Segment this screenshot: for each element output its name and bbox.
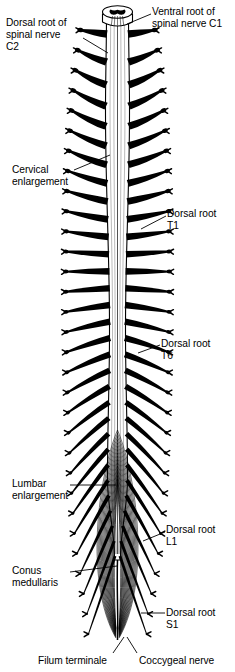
label-dorsal-root-t6: Dorsal root T6 — [161, 338, 210, 362]
medulla-oblongata-stump — [103, 6, 133, 26]
label-lumbar-enlargement: Lumbar enlargement — [12, 478, 68, 502]
label-cervical-enlargement: Cervical enlargement — [12, 164, 68, 188]
label-dorsal-root-c2: Dorsal root of spinal nerve C2 — [6, 17, 66, 54]
label-conus-medullaris: Conus medullaris — [12, 565, 58, 589]
label-coccygeal-nerve: Coccygeal nerve — [139, 655, 214, 667]
label-dorsal-root-s1: Dorsal root S1 — [166, 607, 215, 631]
label-filum-terminale: Filum terminale — [38, 655, 107, 667]
label-ventral-root-c1: Ventral root of spinal nerve C1 — [152, 6, 222, 30]
label-dorsal-root-t1: Dorsal root T1 — [167, 208, 216, 232]
label-dorsal-root-l1: Dorsal root L1 — [166, 524, 215, 548]
filum-terminale — [117, 560, 118, 640]
